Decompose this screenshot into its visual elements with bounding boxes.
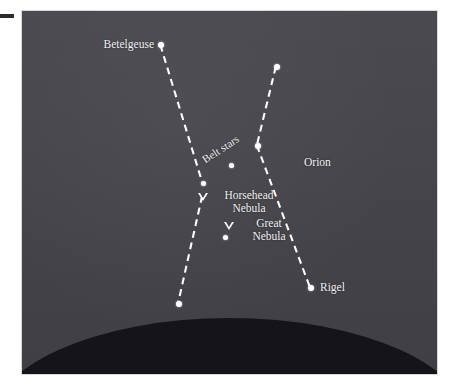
- great-nebula-marker-icon: [224, 222, 234, 230]
- star-saiph: [176, 301, 182, 307]
- label-great-nebula-line2: Nebula: [252, 230, 285, 242]
- star-belt-lower: [201, 181, 206, 186]
- label-betelgeuse: Betelgeuse: [64, 38, 154, 51]
- label-great-nebula: GreatNebula: [238, 217, 300, 243]
- label-rigel: Rigel: [320, 281, 345, 294]
- sky-panel: Betelgeuse Belt stars HorseheadNebula Gr…: [21, 10, 438, 375]
- label-great-nebula-line1: Great: [256, 217, 282, 229]
- star-betelgeuse: [158, 42, 164, 48]
- star-chart-figure: Betelgeuse Belt stars HorseheadNebula Gr…: [0, 0, 461, 392]
- star-belt-upper: [255, 143, 261, 149]
- label-orion: Orion: [304, 156, 331, 169]
- label-horsehead-nebula-line1: Horsehead: [224, 189, 273, 201]
- star-bellatrix: [274, 64, 280, 70]
- label-horsehead-nebula-line2: Nebula: [232, 202, 265, 214]
- label-horsehead-nebula: HorseheadNebula: [210, 189, 288, 215]
- horsehead-nebula-marker-icon: [198, 193, 208, 201]
- star-belt-middle: [229, 163, 234, 168]
- star-rigel: [308, 285, 314, 291]
- page-crop-mark: [0, 14, 14, 18]
- star-great-nebula-region: [223, 235, 228, 240]
